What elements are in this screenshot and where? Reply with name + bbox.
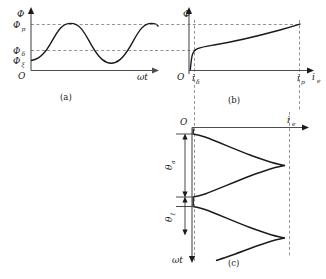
- panel-a-origin-label: O: [18, 71, 26, 81]
- panel-b-origin-label: O: [177, 72, 185, 82]
- panel-c-caption: (c): [228, 258, 239, 268]
- panel-a-caption: (a): [60, 92, 72, 102]
- panel-a-tick-sub-phi-delta: δ: [22, 50, 26, 57]
- panel-a-flux-waveform: [31, 23, 159, 63]
- panel-c-dim-theta-1-arrow-down: [182, 230, 187, 236]
- panel-b-tick-label-i-delta: i: [192, 73, 195, 83]
- panel-a-y-axis-label: Φ: [17, 9, 24, 19]
- panel-b-caption: (b): [228, 95, 240, 105]
- panel-a-tick-sub-phi-xi: ξ: [22, 61, 26, 69]
- panel-a: Φ Φ p Φ δ Φ ξ O ωt (a): [13, 7, 159, 102]
- panel-c-x-axis-label-sub: e: [292, 120, 296, 127]
- panel-c-dim-label-theta-1-group: θ 1: [164, 212, 176, 222]
- panel-b-tick-sub-i-delta: δ: [196, 78, 200, 85]
- panel-c-dim-sub-theta-1: 1: [169, 212, 176, 216]
- figure-svg: Φ Φ p Φ δ Φ ξ O ωt (a): [0, 0, 326, 279]
- panel-c-origin-label: O: [180, 117, 188, 127]
- panel-c-dim-label-theta-a-group: θ a: [164, 160, 176, 170]
- figure-container: Φ Φ p Φ δ Φ ξ O ωt (a): [0, 0, 326, 279]
- panel-a-tick-label-phi-p: Φ: [13, 20, 20, 30]
- panel-c-x-axis-label: i: [287, 115, 290, 125]
- panel-a-x-axis-label: ωt: [137, 72, 148, 82]
- panel-c-dim-sub-theta-a: a: [169, 160, 176, 164]
- panel-b-x-axis-label-sub: e: [317, 77, 321, 84]
- panel-b: Φ O i δ i p i e (b): [155, 7, 321, 112]
- panel-b-tick-label-i-p: i: [297, 73, 300, 83]
- panel-c-current-pulses: [193, 129, 285, 261]
- panel-b-tick-sub-i-p: p: [301, 78, 305, 86]
- figure-footer-text: [0, 270, 326, 279]
- panel-b-y-axis-label: Φ: [183, 9, 190, 19]
- panel-b-magnetization-curve: [190, 24, 300, 70]
- panel-c: O i e θ a θ 1 ωt (c): [164, 112, 309, 268]
- panel-c-x-arrow: [302, 124, 309, 130]
- panel-a-tick-label-phi-xi: Φ: [13, 56, 20, 66]
- panel-a-tick-label-phi-delta: Φ: [13, 46, 20, 56]
- panel-c-y-axis-label: ωt: [172, 255, 183, 265]
- panel-a-y-arrow: [28, 7, 34, 14]
- panel-b-x-axis-label: i: [312, 72, 315, 82]
- panel-a-tick-sub-phi-p: p: [22, 25, 26, 33]
- panel-a-x-arrow: [152, 67, 159, 73]
